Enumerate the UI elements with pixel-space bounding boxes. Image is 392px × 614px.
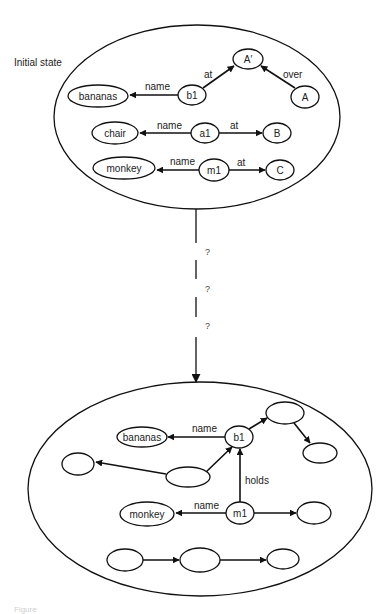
transition-path: ? ? ? <box>196 209 210 382</box>
svg-text:b1: b1 <box>186 90 198 101</box>
svg-text:m1: m1 <box>207 165 221 176</box>
state-transition-diagram: Initial state name at over name at name … <box>0 0 392 614</box>
figure-caption: Figure <box>14 605 37 614</box>
svg-text:bananas: bananas <box>123 432 161 443</box>
node-b: B <box>263 123 291 143</box>
svg-text:C: C <box>276 165 283 176</box>
node-empty-4 <box>166 467 210 487</box>
svg-text:B: B <box>274 128 281 139</box>
edge-label-over: over <box>283 69 303 80</box>
node-empty-6 <box>107 549 143 571</box>
edge-label-at: at <box>237 157 246 168</box>
unknown-step-3: ? <box>205 321 210 331</box>
node-empty-3 <box>62 453 94 475</box>
node-monkey: monkey <box>93 157 155 179</box>
node-m1: m1 <box>226 502 254 524</box>
edge-label-name: name <box>194 500 219 511</box>
svg-text:monkey: monkey <box>129 509 164 520</box>
edge-label-name: name <box>145 81 170 92</box>
node-b1: b1 <box>225 426 253 448</box>
node-a: A <box>291 86 319 108</box>
node-bananas: bananas <box>68 85 128 107</box>
node-b1: b1 <box>178 85 206 105</box>
node-monkey: monkey <box>120 502 174 526</box>
node-empty-1 <box>266 402 304 424</box>
node-empty-7 <box>180 548 220 572</box>
edge-label-name: name <box>157 120 182 131</box>
edge-label-name: name <box>170 156 195 167</box>
svg-text:A′: A′ <box>244 54 253 65</box>
node-empty-5 <box>297 502 331 524</box>
initial-state-label: Initial state <box>14 57 62 68</box>
node-a-prime: A′ <box>233 49 263 69</box>
edge-e4-to-b1 <box>205 447 232 473</box>
edge-e4-to-e3 <box>96 462 166 474</box>
edge-label-holds: holds <box>245 475 269 486</box>
edge-b1-to-e1 <box>249 418 267 429</box>
svg-text:monkey: monkey <box>106 163 141 174</box>
svg-text:chair: chair <box>104 128 126 139</box>
svg-text:bananas: bananas <box>79 91 117 102</box>
edge-e1-to-e2 <box>294 423 310 443</box>
node-c: C <box>266 160 294 180</box>
unknown-step-2: ? <box>205 284 210 294</box>
node-chair: chair <box>92 122 138 144</box>
edge-label-at: at <box>230 120 239 131</box>
unknown-step-1: ? <box>205 247 210 257</box>
node-bananas: bananas <box>117 427 167 447</box>
svg-text:b1: b1 <box>233 432 245 443</box>
svg-text:a1: a1 <box>199 128 211 139</box>
initial-state-ellipse <box>54 25 340 209</box>
node-empty-2 <box>303 443 337 463</box>
edge-label-name: name <box>192 423 217 434</box>
node-empty-8 <box>267 549 299 569</box>
svg-text:m1: m1 <box>233 508 247 519</box>
node-m1: m1 <box>199 159 229 181</box>
edge-label-at: at <box>204 69 213 80</box>
initial-edges: name at over name at name at <box>130 66 303 170</box>
svg-text:A: A <box>302 92 309 103</box>
node-a1: a1 <box>191 123 219 143</box>
